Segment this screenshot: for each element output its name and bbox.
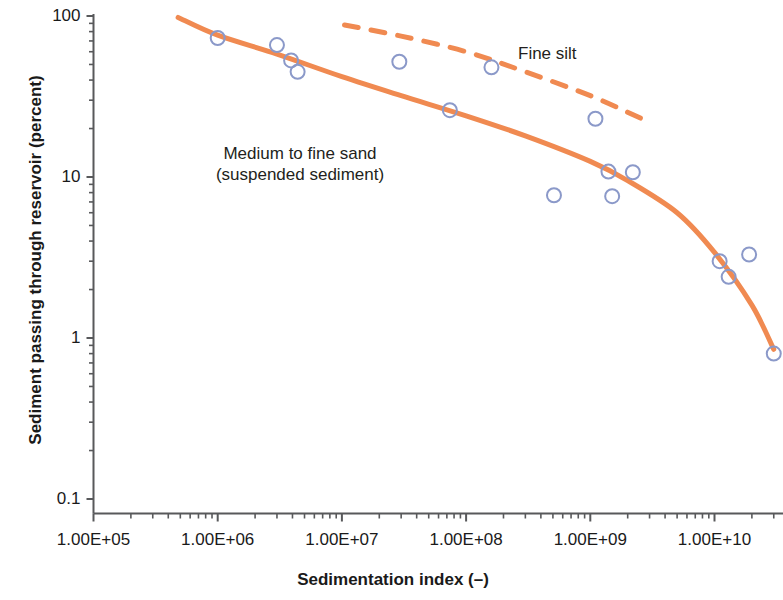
- y-axis-title: Sediment passing through reservoir (perc…: [26, 25, 46, 495]
- x-tick-label: 1.00E+07: [305, 530, 378, 550]
- y-tick-label: 1: [0, 328, 81, 348]
- chart-figure: Sediment passing through reservoir (perc…: [0, 0, 783, 600]
- data-point-marker: [484, 60, 498, 74]
- x-tick-label: 1.00E+09: [554, 530, 627, 550]
- x-axis-title: Sedimentation index (–): [93, 570, 693, 590]
- x-axis-ticks: [94, 514, 774, 522]
- annotation-sand-line2: (suspended sediment): [180, 164, 420, 185]
- data-series-layer: [178, 17, 781, 360]
- y-tick-label: 100: [0, 6, 81, 26]
- data-point-marker: [742, 248, 756, 262]
- data-point-marker: [392, 55, 406, 69]
- x-tick-label: 1.00E+08: [429, 530, 502, 550]
- data-point-marker: [291, 65, 305, 79]
- y-tick-label: 10: [0, 167, 81, 187]
- x-tick-label: 1.00E+06: [181, 530, 254, 550]
- series-line-fine-silt: [345, 25, 642, 119]
- chart-plot-area: [0, 0, 783, 600]
- data-point-marker: [626, 165, 640, 179]
- x-tick-label: 1.00E+05: [57, 530, 130, 550]
- x-tick-label: 1.00E+10: [678, 530, 751, 550]
- data-point-marker: [605, 189, 619, 203]
- annotation-fine-silt: Fine silt: [518, 43, 577, 64]
- y-tick-label: 0.1: [0, 489, 81, 509]
- axis-lines: [94, 14, 783, 514]
- annotation-medium-to-fine-sand: Medium to fine sand (suspended sediment): [180, 143, 420, 186]
- data-point-marker: [588, 112, 602, 126]
- data-point-marker: [270, 38, 284, 52]
- annotation-sand-line1: Medium to fine sand: [180, 143, 420, 164]
- data-point-marker: [547, 188, 561, 202]
- y-axis-ticks: [87, 16, 94, 499]
